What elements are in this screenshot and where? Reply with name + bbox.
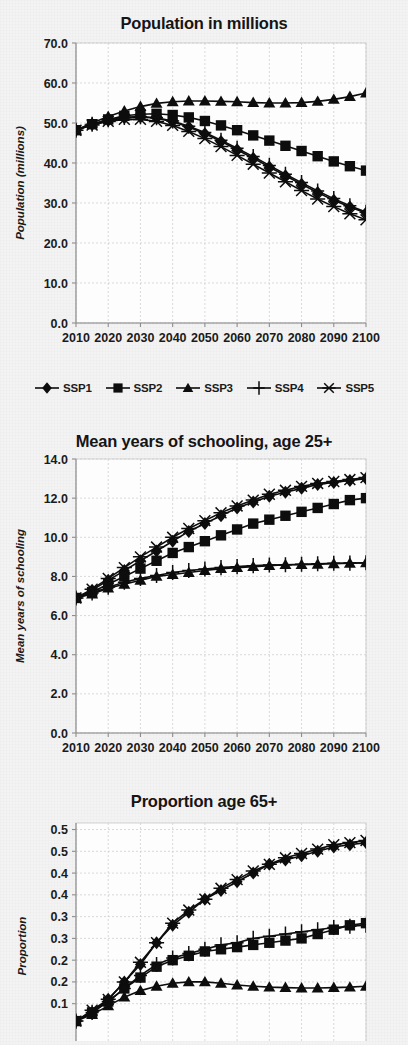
y-tick-label: 6.0	[51, 609, 68, 623]
y-tick-label: 0.3	[51, 910, 68, 924]
legend: SSP1SSP2SSP3SSP4SSP5	[0, 368, 408, 408]
x-tick-label: 2020	[94, 741, 122, 755]
square-marker	[216, 530, 226, 540]
proportion-chart-svg: 0.10.20.20.30.30.40.40.50.5Proportion	[0, 811, 408, 1041]
x-tick-label: 2030	[127, 741, 155, 755]
square-marker	[280, 141, 290, 151]
square-marker	[345, 495, 355, 505]
square-marker	[216, 120, 226, 130]
legend-row: SSP1SSP2SSP3SSP4SSP5	[0, 368, 408, 408]
y-tick-label: 2.0	[51, 687, 68, 701]
y-tick-label: 0.1	[51, 997, 68, 1011]
y-tick-label: 0.2	[51, 975, 68, 989]
y-tick-label: 0.0	[51, 727, 68, 741]
page-title-proportion: Proportion age 65+	[0, 782, 408, 811]
square-marker	[264, 514, 274, 524]
square-marker	[312, 503, 322, 513]
square-marker	[280, 511, 290, 521]
square-marker	[200, 116, 210, 126]
square-marker	[296, 507, 306, 517]
x-tick-label: 2100	[352, 331, 380, 345]
square-marker	[232, 524, 242, 534]
y-tick-label: 0.2	[51, 954, 68, 968]
y-tick-label: 8.0	[51, 570, 68, 584]
x-tick-label: 2080	[288, 741, 316, 755]
y-tick-label: 10.0	[44, 277, 68, 291]
y-tick-label: 70.0	[44, 37, 68, 51]
legend-label: SSP4	[275, 382, 304, 394]
x-tick-label: 2080	[288, 331, 316, 345]
square-marker	[151, 556, 161, 566]
x-tick-label: 2070	[255, 331, 283, 345]
square-marker	[167, 548, 177, 558]
y-tick-label: 0.5	[51, 823, 68, 837]
square-marker	[248, 518, 258, 528]
square-marker	[248, 130, 258, 140]
x-tick-label: 2050	[191, 331, 219, 345]
y-tick-label: 10.0	[44, 531, 68, 545]
y-tick-label: 0.5	[51, 845, 68, 859]
y-tick-label: 20.0	[44, 237, 68, 251]
square-marker	[264, 135, 274, 145]
x-tick-label: 2060	[223, 331, 251, 345]
square-marker	[232, 125, 242, 135]
chart-panel-schooling: Mean years of schooling, age 25+ 0.02.04…	[0, 418, 408, 780]
x-tick-label: 2020	[94, 331, 122, 345]
x-tick-label: 2040	[159, 741, 187, 755]
y-tick-label: 0.0	[51, 317, 68, 331]
legend-label: SSP1	[63, 382, 92, 394]
legend-item-ssp3[interactable]: SSP3	[175, 380, 233, 396]
legend-swatch-plus-marker	[246, 380, 272, 396]
schooling-chart-svg: 0.02.04.06.08.010.012.014.0Mean years of…	[0, 451, 408, 776]
y-tick-label: 14.0	[44, 453, 68, 467]
population-chart-svg: 0.010.020.030.040.050.060.070.0Populatio…	[0, 33, 408, 363]
y-tick-label: 40.0	[44, 157, 68, 171]
legend-label: SSP2	[134, 382, 163, 394]
legend-item-ssp4[interactable]: SSP4	[246, 380, 304, 396]
square-marker	[361, 165, 371, 175]
diamond-marker	[42, 382, 52, 394]
y-tick-label: 60.0	[44, 77, 68, 91]
plot-area	[76, 43, 366, 323]
x-tick-label: 2090	[320, 331, 348, 345]
square-marker	[113, 383, 122, 392]
legend-item-ssp5[interactable]: SSP5	[316, 380, 374, 396]
x-tick-label: 2030	[127, 331, 155, 345]
legend-swatch-square-marker	[105, 380, 131, 396]
y-tick-label: 30.0	[44, 197, 68, 211]
legend-swatch-diamond-marker	[34, 380, 60, 396]
plus-marker	[253, 381, 265, 394]
x-tick-label: 2070	[255, 741, 283, 755]
x-tick-label: 2010	[62, 741, 90, 755]
y-axis-title: Population (millions)	[14, 126, 26, 240]
y-tick-label: 0.3	[51, 932, 68, 946]
y-tick-label: 50.0	[44, 117, 68, 131]
square-marker	[296, 146, 306, 156]
page-title-schooling: Mean years of schooling, age 25+	[0, 418, 408, 451]
legend-swatch-triangle-marker	[175, 380, 201, 396]
square-marker	[345, 161, 355, 171]
legend-item-ssp2[interactable]: SSP2	[105, 380, 163, 396]
square-marker	[184, 542, 194, 552]
legend-label: SSP3	[204, 382, 233, 394]
square-marker	[329, 499, 339, 509]
square-marker	[329, 156, 339, 166]
y-axis-title: Mean years of schooling	[14, 529, 26, 663]
x-tick-label: 2050	[191, 741, 219, 755]
x-tick-label: 2040	[159, 331, 187, 345]
y-tick-label: 4.0	[51, 648, 68, 662]
chart-panel-population: Population in millions 0.010.020.030.040…	[0, 0, 408, 368]
square-marker	[361, 493, 371, 503]
page-title-population: Population in millions	[0, 0, 408, 33]
legend-label: SSP5	[345, 382, 374, 394]
legend-swatch-asterisk-marker	[316, 380, 342, 396]
x-tick-label: 2100	[352, 741, 380, 755]
legend-item-ssp1[interactable]: SSP1	[34, 380, 92, 396]
y-axis-title: Proportion	[16, 917, 28, 976]
square-marker	[200, 536, 210, 546]
y-tick-label: 12.0	[44, 492, 68, 506]
chart-panel-proportion: Proportion age 65+ 0.10.20.20.30.30.40.4…	[0, 782, 408, 1045]
asterisk-marker	[323, 383, 336, 393]
y-tick-label: 0.4	[51, 888, 68, 902]
x-tick-label: 2010	[62, 331, 90, 345]
